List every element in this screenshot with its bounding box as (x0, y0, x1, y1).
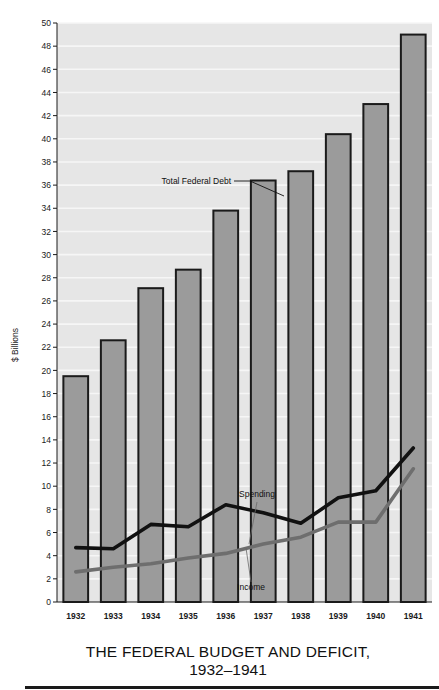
y-tick-label: 10 (42, 481, 52, 491)
y-tick-label: 36 (42, 180, 52, 190)
y-tick-label: 32 (42, 227, 52, 237)
x-tick-label: 1935 (179, 611, 198, 621)
x-tick-label: 1939 (329, 611, 348, 621)
bar (401, 35, 426, 602)
y-tick-label: 4 (46, 551, 51, 561)
y-tick-label: 24 (42, 319, 52, 329)
y-tick-label: 22 (42, 342, 52, 352)
x-tick-label: 1940 (366, 611, 385, 621)
chart-title: THE FEDERAL BUDGET AND DEFICIT, (86, 643, 370, 660)
y-tick-label: 14 (42, 435, 52, 445)
x-tick-label: 1932 (66, 611, 85, 621)
bar (213, 211, 238, 602)
chart-svg: 0246810121416182022242628303234363840424… (0, 0, 439, 690)
bar (101, 340, 126, 602)
annotation-spending-label: Spending (239, 489, 275, 499)
bar (326, 134, 351, 602)
annotation-debt-label: Total Federal Debt (162, 176, 232, 186)
y-tick-label: 12 (42, 458, 52, 468)
y-tick-label: 34 (42, 203, 52, 213)
y-tick-label: 28 (42, 273, 52, 283)
chart-figure: 0246810121416182022242628303234363840424… (0, 0, 439, 690)
x-tick-label: 1936 (216, 611, 235, 621)
y-tick-label: 50 (42, 18, 52, 28)
y-tick-label: 42 (42, 111, 52, 121)
bar (176, 270, 201, 602)
y-tick-label: 46 (42, 65, 52, 75)
y-tick-label: 0 (46, 597, 51, 607)
y-tick-label: 30 (42, 250, 52, 260)
bottom-rule (25, 686, 439, 689)
annotation-income-label: Income (237, 582, 265, 592)
x-tick-label: 1941 (404, 611, 423, 621)
y-tick-label: 16 (42, 412, 52, 422)
y-tick-label: 48 (42, 41, 52, 51)
y-tick-label: 38 (42, 157, 52, 167)
chart-subtitle: 1932–1941 (189, 661, 267, 678)
y-tick-label: 40 (42, 134, 52, 144)
x-tick-label: 1933 (104, 611, 123, 621)
y-tick-label: 26 (42, 296, 52, 306)
bar (251, 180, 276, 602)
x-tick-label: 1934 (141, 611, 160, 621)
x-tick-label: 1937 (254, 611, 273, 621)
y-tick-label: 8 (46, 505, 51, 515)
y-tick-label: 18 (42, 389, 52, 399)
x-tick-label: 1938 (291, 611, 310, 621)
y-tick-label: 44 (42, 88, 52, 98)
y-tick-label: 20 (42, 366, 52, 376)
bar (63, 376, 88, 602)
y-tick-label: 6 (46, 528, 51, 538)
bar (363, 104, 388, 602)
y-axis-title: $ Billions (10, 328, 20, 362)
bar (138, 288, 163, 602)
y-tick-label: 2 (46, 574, 51, 584)
